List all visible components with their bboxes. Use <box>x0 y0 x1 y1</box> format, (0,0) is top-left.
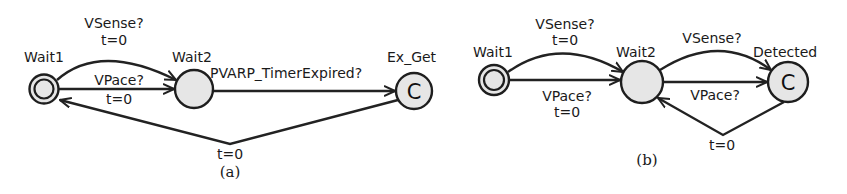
label-a-vsense-sync: VSense? <box>84 15 143 31</box>
edge-b-wait1-wait2-vsense <box>508 54 623 73</box>
edge-b-detected-wait2 <box>658 98 784 135</box>
label-b-vsense-sync: VSense? <box>535 16 594 32</box>
label-b-vsense2-sync: VSense? <box>682 30 741 46</box>
caption-b: (b) <box>636 151 657 169</box>
diagram-a: C Wait1 Wait2 Ex_Get VSense? t=0 VPace? … <box>24 15 437 181</box>
label-b-vsense-update: t=0 <box>552 32 578 48</box>
state-a-wait2 <box>175 70 213 108</box>
state-name-b-wait1: Wait1 <box>473 44 513 60</box>
state-name-a-wait1: Wait1 <box>24 49 64 65</box>
label-a-vpace-sync: VPace? <box>94 72 144 88</box>
committed-marker: C <box>781 71 796 95</box>
caption-a: (a) <box>220 163 241 181</box>
automata-figure: C Wait1 Wait2 Ex_Get VSense? t=0 VPace? … <box>0 0 847 194</box>
label-b-return-update: t=0 <box>709 137 735 153</box>
state-b-wait2 <box>621 61 663 103</box>
label-b-vpace-update: t=0 <box>554 104 580 120</box>
state-b-detected: C <box>768 62 808 102</box>
label-b-vpace2-sync: VPace? <box>690 87 740 103</box>
label-a-return-update: t=0 <box>217 146 243 162</box>
label-a-pvarp-sync: PVARP_TimerExpired? <box>210 65 362 81</box>
diagram-b: C Wait1 Wait2 Detected VSense? t=0 VPace… <box>473 16 817 169</box>
label-a-vpace-update: t=0 <box>106 91 132 107</box>
label-b-vpace-sync: VPace? <box>542 88 592 104</box>
state-name-a-wait2: Wait2 <box>172 49 212 65</box>
state-name-b-wait2: Wait2 <box>616 44 656 60</box>
state-a-wait1 <box>30 75 59 104</box>
state-name-b-detected: Detected <box>753 44 817 60</box>
state-a-exget: C <box>396 73 432 109</box>
committed-marker: C <box>407 80 422 104</box>
state-b-wait1 <box>479 65 509 95</box>
state-name-a-exget: Ex_Get <box>387 49 437 65</box>
label-a-vsense-update: t=0 <box>101 32 127 48</box>
